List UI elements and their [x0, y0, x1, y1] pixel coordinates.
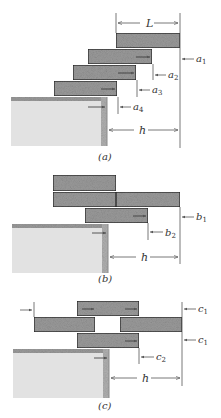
block-b-top [53, 175, 116, 191]
label-a4: a4 [133, 101, 144, 114]
caption-a: (a) [98, 151, 112, 162]
block-c-left [34, 317, 95, 332]
block-c-top [77, 301, 139, 316]
label-b2: b2 [165, 227, 176, 240]
block-stacking-figure: L h a1 a2 a3 a4 (a) [0, 0, 221, 418]
blocks-c [34, 301, 182, 348]
table-c [13, 349, 109, 398]
label-a3: a3 [152, 84, 162, 97]
panel-c: h c1 c1 c2 (c) [13, 301, 208, 411]
blocks-b [53, 175, 180, 223]
block-b-mid-left [53, 192, 116, 207]
label-h-a: h [139, 124, 146, 137]
block-a1 [116, 33, 180, 48]
caption-c: (c) [98, 400, 112, 411]
label-c1-bottom: c1 [198, 334, 208, 347]
block-b-mid-right [116, 192, 180, 207]
caption-b: (b) [98, 273, 112, 284]
label-h-b: h [141, 251, 148, 264]
table-a [11, 97, 107, 146]
label-L: L [145, 17, 153, 30]
panel-a: L h a1 a2 a3 a4 (a) [11, 13, 206, 162]
block-a2 [88, 49, 152, 64]
label-b1: b1 [196, 211, 207, 224]
block-c-bottom [77, 333, 139, 348]
block-c-right [120, 317, 182, 332]
block-a3 [73, 65, 136, 80]
panel-b: h b1 b2 (b) [12, 175, 207, 284]
table-b [12, 224, 108, 273]
label-h-c: h [142, 372, 149, 385]
block-b-bottom [85, 208, 148, 223]
label-a1: a1 [196, 53, 206, 66]
label-c2: c2 [156, 351, 166, 364]
label-c1-top: c1 [198, 303, 208, 316]
block-a4 [54, 81, 117, 96]
blocks-a [54, 33, 180, 96]
label-a2: a2 [168, 69, 178, 82]
